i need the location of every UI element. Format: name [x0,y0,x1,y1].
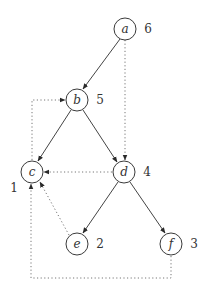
edge-d-f [130,182,165,233]
edge-d-e [83,182,118,233]
node-c: c 1 [10,161,43,195]
node-d-label: d [120,165,128,179]
node-f-order: 3 [190,237,198,251]
node-d-order: 4 [143,165,151,179]
edge-a-b [83,39,120,89]
node-e: e 2 [66,233,104,255]
edge-e-c [40,182,69,235]
node-e-label: e [73,237,80,251]
node-b: b 5 [66,89,104,111]
node-e-order: 2 [96,237,104,251]
edge-b-c [38,110,71,161]
node-c-order: 1 [10,181,18,195]
edge-f-c [31,184,171,278]
edge-c-b [32,100,65,160]
node-f: f 3 [160,233,198,255]
graph-diagram: a 6 b 5 c 1 d 4 e 2 f 3 [0,0,205,294]
node-c-label: c [29,165,36,179]
node-d: d 4 [113,161,151,183]
node-a: a 6 [114,18,152,40]
edge-b-d [83,110,117,162]
tree-edges [38,39,165,233]
node-a-order: 6 [144,22,152,36]
node-b-order: 5 [96,93,104,107]
node-a-label: a [121,22,128,36]
node-b-label: b [73,93,81,107]
